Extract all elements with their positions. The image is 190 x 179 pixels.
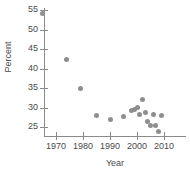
x-tick-label-wrap: 1970: [41, 142, 71, 151]
y-tick-label-wrap: 55: [0, 5, 38, 14]
data-point: [78, 86, 83, 91]
data-point: [121, 114, 126, 119]
x-tick-mark: [137, 132, 138, 140]
y-axis-line: [44, 8, 45, 137]
y-tick-label: 30: [28, 103, 38, 112]
y-tick-label: 55: [28, 5, 38, 14]
y-tick-label: 45: [28, 44, 38, 53]
y-tick-mark: [40, 69, 48, 70]
y-tick-label-wrap: 30: [0, 103, 38, 112]
data-point: [108, 117, 113, 122]
y-tick-mark: [40, 108, 48, 109]
x-tick-mark: [83, 132, 84, 140]
y-tick-mark: [40, 127, 48, 128]
y-axis-label: Percent: [3, 33, 13, 81]
y-tick-label-wrap: 25: [0, 122, 38, 131]
y-tick-mark: [40, 30, 48, 31]
data-point: [140, 97, 145, 102]
x-tick-label: 2010: [149, 142, 179, 151]
y-tick-mark: [40, 88, 48, 89]
data-point: [135, 105, 140, 110]
x-tick-label-wrap: 2000: [122, 142, 152, 151]
x-tick-mark: [110, 132, 111, 140]
x-tick-label-wrap: 1980: [68, 142, 98, 151]
data-point: [151, 112, 156, 117]
y-tick-mark: [40, 49, 48, 50]
data-point: [156, 129, 161, 134]
y-tick-label: 35: [28, 83, 38, 92]
plot-area: 25303540455055 19701980199020002010: [0, 0, 190, 179]
data-point: [94, 113, 99, 118]
x-tick-label-wrap: 2010: [149, 142, 179, 151]
data-point: [137, 112, 142, 117]
x-tick-label: 1990: [95, 142, 125, 151]
scatter-chart-figure: 25303540455055 19701980199020002010 Perc…: [0, 0, 190, 179]
x-tick-label-wrap: 1990: [95, 142, 125, 151]
data-point: [153, 123, 158, 128]
x-axis-label: Year: [44, 158, 186, 168]
data-point: [159, 113, 164, 118]
data-point: [143, 110, 148, 115]
y-tick-label-wrap: 35: [0, 83, 38, 92]
y-tick-label: 50: [28, 25, 38, 34]
x-tick-mark: [164, 132, 165, 140]
data-point: [64, 57, 69, 62]
data-point: [148, 123, 153, 128]
x-tick-label: 1970: [41, 142, 71, 151]
x-tick-label: 2000: [122, 142, 152, 151]
y-tick-label: 25: [28, 122, 38, 131]
x-tick-label: 1980: [68, 142, 98, 151]
y-tick-label: 40: [28, 64, 38, 73]
x-tick-mark: [56, 132, 57, 140]
